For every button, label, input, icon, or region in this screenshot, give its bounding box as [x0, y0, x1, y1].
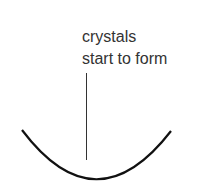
evaporating-dish-diagram — [0, 0, 207, 185]
solution-liquid — [22, 130, 171, 185]
